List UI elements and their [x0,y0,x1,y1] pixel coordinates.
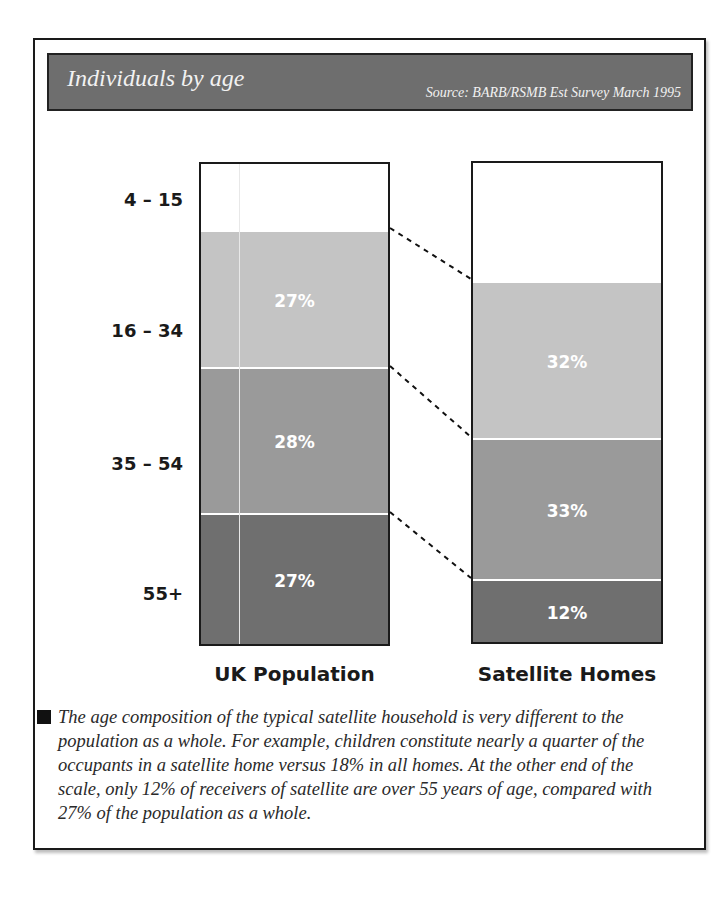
bar-label-satellite-homes: Satellite Homes [456,662,678,686]
connector-line [390,228,471,279]
connector-line [390,366,471,437]
bar-label-uk-population: UK Population [189,662,400,686]
connector-line [390,512,471,578]
caption-text: The age composition of the typical satel… [58,705,678,825]
square-bullet-icon [37,710,51,724]
